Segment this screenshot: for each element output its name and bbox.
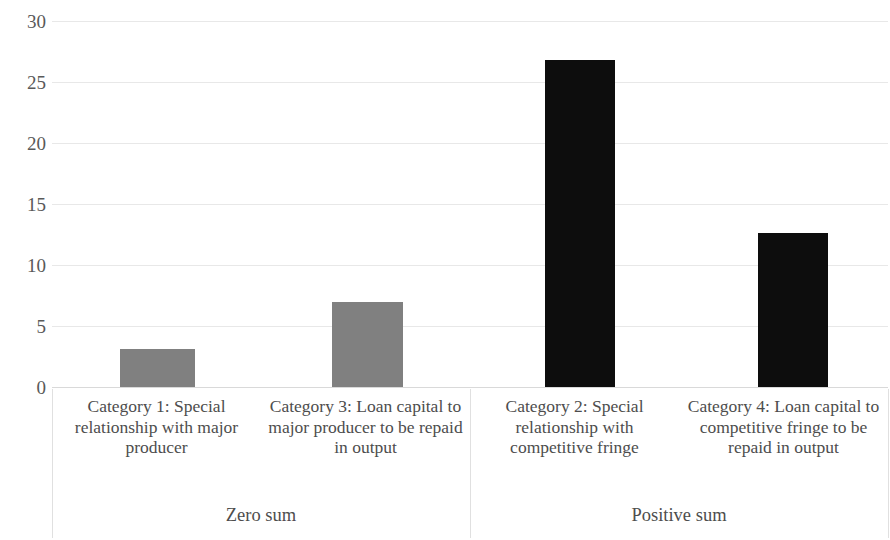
plot-area: [52, 21, 888, 387]
gridline: [52, 21, 888, 22]
group-label-positive-sum: Positive sum: [470, 494, 888, 538]
group-separator-middle: [470, 389, 471, 538]
gridline: [52, 204, 888, 205]
y-tick-label: 25: [2, 73, 46, 92]
category-label-4: Category 4: Loan capital to competitive …: [679, 389, 888, 494]
gridline: [52, 143, 888, 144]
y-axis: 30 25 20 15 10 5 0: [0, 0, 46, 540]
gridline: [52, 82, 888, 83]
bar-category-1: [120, 349, 195, 387]
bar-chart: 30 25 20 15 10 5 0 Category 1: Special r…: [0, 0, 890, 540]
y-tick-label: 30: [2, 12, 46, 31]
axis-separator-right: [888, 389, 889, 538]
axis-separator-left: [52, 389, 53, 538]
bar-category-2: [545, 60, 615, 387]
y-tick-label: 0: [2, 378, 46, 397]
y-tick-label: 20: [2, 134, 46, 153]
group-label-zero-sum: Zero sum: [52, 494, 470, 538]
bar-category-4: [758, 233, 828, 387]
category-label-1: Category 1: Special relationship with ma…: [52, 389, 261, 494]
category-label-3: Category 3: Loan capital to major produc…: [261, 389, 470, 494]
y-tick-label: 5: [2, 317, 46, 336]
y-tick-label: 10: [2, 256, 46, 275]
category-label-2: Category 2: Special relationship with co…: [470, 389, 679, 494]
y-tick-label: 15: [2, 195, 46, 214]
x-axis-line: [52, 387, 888, 388]
bar-category-3: [332, 302, 403, 387]
